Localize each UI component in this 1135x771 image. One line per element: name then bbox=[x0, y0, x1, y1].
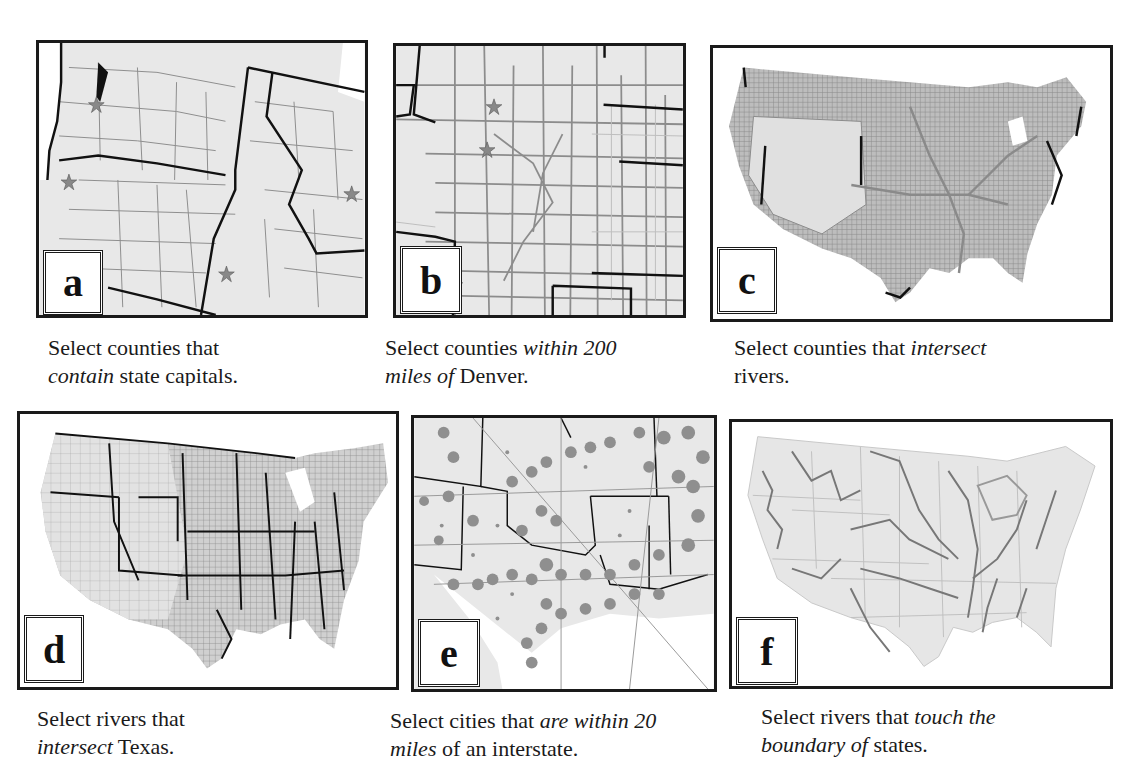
panel-label-c: c bbox=[717, 247, 777, 314]
panel-label-f-text: f bbox=[760, 628, 773, 675]
map-panel-d: d bbox=[17, 411, 399, 690]
caption-d-line2: intersect Texas. bbox=[37, 733, 185, 761]
panel-label-b-text: b bbox=[420, 257, 442, 304]
caption-b-line2: miles of Denver. bbox=[385, 362, 617, 390]
caption-e-line2: miles of an interstate. bbox=[390, 735, 656, 763]
map-panel-f: f bbox=[729, 419, 1113, 689]
caption-e-line1: Select cities that are within 20 bbox=[390, 707, 656, 735]
panel-label-e: e bbox=[418, 619, 480, 687]
panel-label-a: a bbox=[43, 250, 103, 315]
caption-f-line1: Select rivers that touch the bbox=[761, 703, 996, 731]
caption-c: Select counties that intersect rivers. bbox=[734, 334, 986, 390]
caption-f: Select rivers that touch the boundary of… bbox=[761, 703, 996, 759]
caption-a-line1: Select counties that bbox=[48, 334, 238, 362]
panel-label-a-text: a bbox=[63, 259, 83, 306]
panel-label-d-text: d bbox=[43, 626, 65, 673]
map-panel-b: b bbox=[393, 43, 686, 318]
panel-label-f: f bbox=[736, 617, 798, 685]
panel-label-d: d bbox=[24, 615, 84, 683]
map-panel-a: a bbox=[36, 40, 368, 318]
panel-label-c-text: c bbox=[738, 257, 756, 304]
panel-label-e-text: e bbox=[440, 630, 458, 677]
caption-a-line2: contain state capitals. bbox=[48, 362, 238, 386]
caption-d-line1: Select rivers that bbox=[37, 705, 185, 733]
map-panel-c: c bbox=[710, 45, 1113, 322]
caption-c-line1: Select counties that intersect bbox=[734, 334, 986, 362]
caption-c-line2: rivers. bbox=[734, 362, 986, 390]
cropped-text-strip bbox=[0, 0, 1135, 6]
caption-b: Select counties within 200 miles of Denv… bbox=[385, 334, 617, 390]
caption-d: Select rivers that intersect Texas. bbox=[37, 705, 185, 761]
caption-a: Select counties that contain state capit… bbox=[48, 334, 238, 386]
caption-f-line2: boundary of states. bbox=[761, 731, 996, 759]
map-panel-e: e bbox=[411, 415, 717, 692]
caption-b-line1: Select counties within 200 bbox=[385, 334, 617, 362]
caption-e: Select cities that are within 20 miles o… bbox=[390, 707, 656, 763]
panel-label-b: b bbox=[400, 246, 462, 314]
